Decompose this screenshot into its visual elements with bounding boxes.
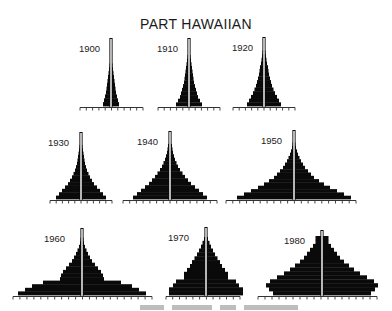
caption-text-fragment xyxy=(0,302,392,311)
year-label: 1910 xyxy=(157,43,178,54)
year-label: 1900 xyxy=(79,43,100,54)
sex-divider-line xyxy=(205,228,206,296)
sex-divider-line xyxy=(293,131,294,200)
sex-divider-line xyxy=(263,38,264,107)
pyramid-grid xyxy=(0,0,392,311)
year-label: 1920 xyxy=(232,42,253,53)
year-label: 1970 xyxy=(168,232,189,243)
pyramid-1960 xyxy=(13,228,152,300)
sex-divider-line xyxy=(80,133,81,200)
year-label: 1950 xyxy=(261,135,282,146)
year-label: 1940 xyxy=(137,136,158,147)
sex-divider-line xyxy=(110,39,111,107)
cropped-caption xyxy=(0,302,392,311)
sex-divider-line xyxy=(81,229,82,296)
pyramid-1950 xyxy=(226,130,356,204)
year-label: 1980 xyxy=(284,235,305,246)
sex-divider-line xyxy=(169,132,170,200)
sex-divider-line xyxy=(188,39,189,107)
year-label: 1930 xyxy=(48,137,69,148)
year-label: 1960 xyxy=(44,233,65,244)
sex-divider-line xyxy=(321,231,322,296)
pyramid-1980 xyxy=(258,230,378,300)
